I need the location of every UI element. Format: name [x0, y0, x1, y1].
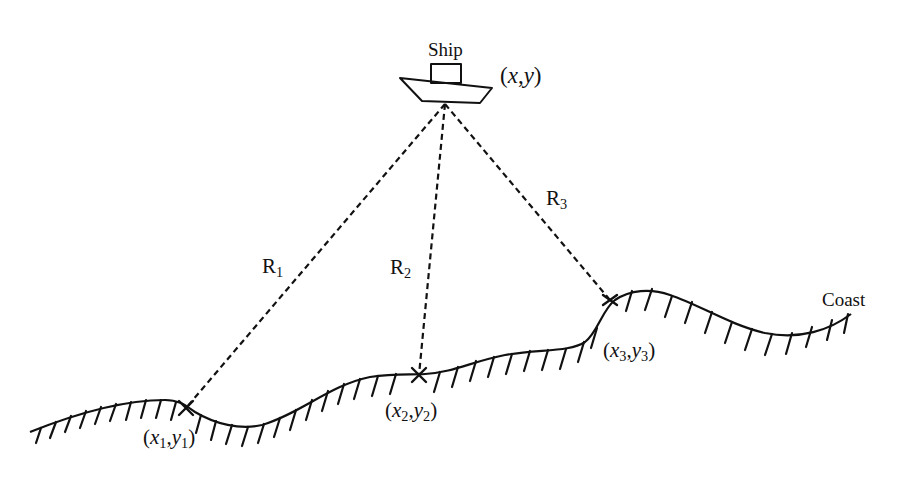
point-label-2: (x2,y2)	[385, 400, 437, 424]
range-line-r2	[419, 104, 445, 375]
ship-hull	[400, 78, 492, 103]
ship-position-label: (x,y)	[500, 64, 542, 87]
diagram-canvas	[0, 0, 905, 491]
range-label-r2: R2	[390, 257, 411, 281]
point-markers	[179, 295, 617, 415]
coast-label: Coast	[822, 290, 865, 309]
ship-cabin	[431, 64, 461, 83]
ship-icon	[400, 64, 492, 103]
range-label-r3: R3	[546, 188, 567, 212]
coastline	[30, 291, 851, 432]
point-label-1: (x1,y1)	[143, 427, 195, 451]
point-label-3: (x3,y3)	[603, 340, 655, 364]
coast-hatching	[36, 289, 848, 446]
range-line-r1	[186, 104, 445, 408]
ship-label: Ship	[428, 40, 463, 59]
range-line-r3	[445, 104, 610, 300]
range-label-r1: R1	[262, 256, 283, 280]
